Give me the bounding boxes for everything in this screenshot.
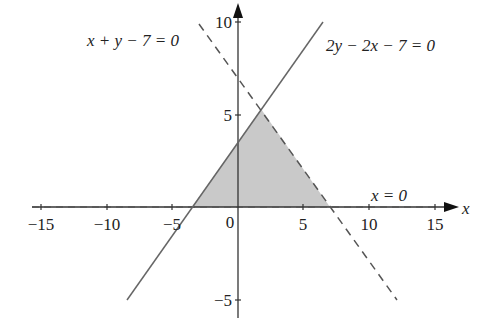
x-tick-label: 10 xyxy=(361,215,378,234)
y-tick-label: 5 xyxy=(224,106,233,125)
chart-canvas: −15 −10 −5 0 5 10 15 10 5 −5 x x + y − 7… xyxy=(0,0,478,323)
y-tick-label: −5 xyxy=(214,291,232,310)
x-tick-label: −5 xyxy=(163,215,181,234)
x-tick-label: −10 xyxy=(94,215,121,234)
equation-label-solid-line: 2y − 2x − 7 = 0 xyxy=(326,36,436,55)
x-tick-label: −15 xyxy=(28,215,55,234)
y-axis-arrow-icon xyxy=(233,3,243,18)
y-tick-label: 10 xyxy=(215,13,232,32)
x-axis-label: x xyxy=(461,199,470,218)
shaded-region xyxy=(192,109,330,207)
x-tick-label: 5 xyxy=(299,215,308,234)
x-tick-label: 0 xyxy=(226,213,235,232)
x-axis-arrow-icon xyxy=(444,202,459,212)
equation-label-dashed-line: x + y − 7 = 0 xyxy=(86,31,180,50)
x-tick-label: 15 xyxy=(427,215,444,234)
equation-label-x-axis: x = 0 xyxy=(370,186,408,205)
